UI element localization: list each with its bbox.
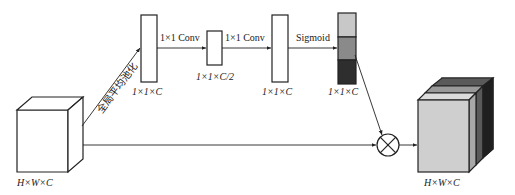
output-shape-label: H×W×C [424,177,460,189]
diagram-canvas [0,0,515,195]
input-feature-cube [17,97,83,172]
sigmoid-edge-label: Sigmoid [296,32,330,44]
output-feature-cube [418,78,493,172]
conv2-vector-label: 1×1×C [262,86,292,98]
conv1-edge-label: 1×1 Conv [160,32,200,44]
sigmoid-weight-bar [338,13,356,84]
weights-to-multiply-arrow [355,55,382,135]
conv1-vector-box [207,31,222,65]
input-shape-label: H×W×C [17,177,53,189]
conv1-vector-label: 1×1×C/2 [196,71,234,83]
sigmoid-vector-label: 1×1×C [328,86,358,98]
gap-vector-box [141,15,157,82]
conv2-edge-label: 1×1 Conv [225,32,265,44]
gap-vector-label: 1×1×C [132,86,162,98]
conv2-vector-box [272,15,288,82]
multiply-icon [377,134,399,156]
